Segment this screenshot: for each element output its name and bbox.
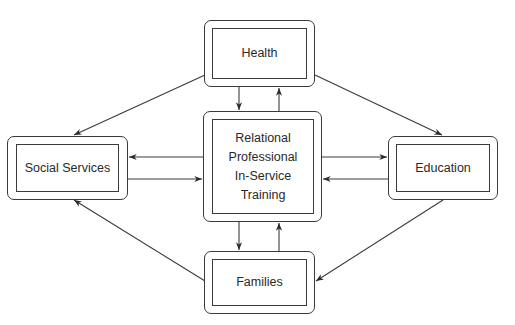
arrow-families-to-social xyxy=(74,200,205,281)
arrow-health-to-social xyxy=(74,75,205,135)
node-education-label: Education xyxy=(415,159,471,178)
center-label-line-2: Professional xyxy=(229,148,298,167)
node-social-label: Social Services xyxy=(25,159,110,178)
node-health-label: Health xyxy=(241,44,277,63)
center-label-line-3: In-Service xyxy=(235,167,291,186)
node-education: Education xyxy=(388,136,498,200)
center-label-line-4: Training xyxy=(241,186,286,205)
node-families-label: Families xyxy=(236,273,283,292)
node-families-inner: Families xyxy=(212,259,307,306)
node-families: Families xyxy=(204,251,315,314)
arrow-health-to-education xyxy=(315,75,442,135)
node-social-inner: Social Services xyxy=(16,144,119,192)
node-education-inner: Education xyxy=(396,144,490,192)
arrow-education-to-families xyxy=(316,200,443,281)
node-center-training: Relational Professional In-Service Train… xyxy=(203,111,322,222)
node-health-inner: Health xyxy=(212,28,307,79)
node-health: Health xyxy=(204,20,315,87)
center-label-line-1: Relational xyxy=(235,129,291,148)
node-center-inner: Relational Professional In-Service Train… xyxy=(212,119,314,214)
node-social-services: Social Services xyxy=(7,136,128,200)
